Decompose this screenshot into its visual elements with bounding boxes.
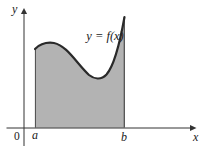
origin-label: 0 — [14, 130, 20, 142]
curve-equation-label: y = f(x) — [84, 29, 124, 43]
area-under-curve-figure: y x 0 a b y = f(x) — [0, 0, 204, 156]
b-tick-label: b — [121, 130, 127, 144]
figure-canvas: y x 0 a b y = f(x) — [0, 0, 204, 156]
y-axis-label: y — [11, 2, 18, 16]
y-axis-arrow-icon — [21, 8, 27, 14]
a-tick-label: a — [32, 128, 38, 142]
x-axis-label: x — [192, 130, 199, 144]
